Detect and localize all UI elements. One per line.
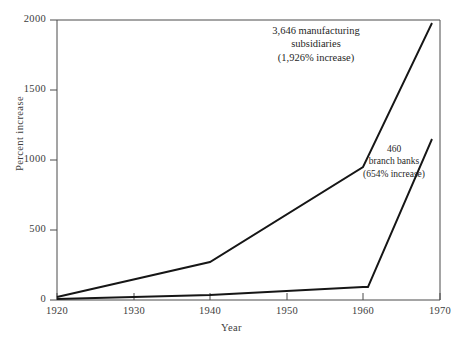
y-axis-label-2000: 2000 (14, 13, 46, 24)
chart-figure: 0 500 1000 1500 2000 1920 1930 1940 1950… (0, 0, 463, 348)
annotation-manufacturing-line-1: 3,646 manufacturing (228, 24, 404, 37)
x-axis-label-1960: 1960 (342, 305, 384, 316)
y-axis-ticks (50, 20, 57, 300)
y-axis-label-500: 500 (14, 223, 46, 234)
y-axis-label-0: 0 (14, 293, 46, 304)
x-axis-label-1970: 1970 (419, 305, 461, 316)
x-axis-label-1920: 1920 (36, 305, 78, 316)
annotation-manufacturing-line-3: (1,926% increase) (228, 51, 404, 64)
annotation-branch-banks-line-3: (654% increase) (342, 168, 446, 180)
x-axis-label-1940: 1940 (189, 305, 231, 316)
x-axis-label-1930: 1930 (113, 305, 155, 316)
annotation-manufacturing-subsidiaries: 3,646 manufacturing subsidiaries (1,926%… (228, 24, 404, 64)
y-axis-title: Percent increase (14, 79, 25, 189)
annotation-branch-banks-line-1: 460 (342, 143, 446, 155)
x-axis-ticks (57, 293, 440, 300)
annotation-branch-banks-line-2: branch banks (342, 155, 446, 167)
annotation-manufacturing-line-2: subsidiaries (228, 37, 404, 50)
x-axis-title: Year (0, 322, 463, 333)
x-axis-label-1950: 1950 (266, 305, 308, 316)
annotation-branch-banks: 460 branch banks (654% increase) (342, 143, 446, 180)
